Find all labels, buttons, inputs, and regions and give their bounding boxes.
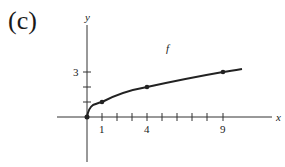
data-points	[85, 70, 226, 120]
x-axis-label: x	[275, 111, 281, 123]
y-axis-label: y	[84, 11, 90, 23]
y-tick-label-3: 3	[73, 66, 79, 78]
x-tick-label-4: 4	[144, 123, 150, 135]
point-1-1	[100, 100, 105, 105]
point-0-0	[85, 115, 90, 120]
x-tick-label-1: 1	[99, 123, 105, 135]
point-4-2	[145, 85, 150, 90]
function-label: f	[166, 42, 171, 54]
sqrt-function-graph: y x f 3 1 4 9	[0, 0, 285, 167]
point-9-3	[221, 70, 226, 75]
x-tick-label-9: 9	[220, 123, 226, 135]
function-curve	[87, 69, 242, 117]
